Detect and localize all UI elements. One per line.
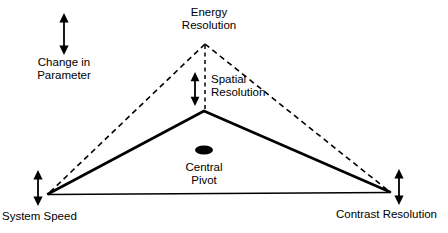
tradeoff-triangle-graphic [0,0,448,233]
label-central-pivot-line2: Pivot [185,174,222,187]
filled-ellipse-icon [195,145,213,154]
double-headed-vertical-arrow-icon-left-vertex [33,170,42,206]
label-spatial-resolution-line1: Spatial [211,73,265,86]
label-spatial-resolution-line2: Resolution [211,86,265,99]
solid-edge-right [204,111,390,192]
label-energy-resolution-line1: Energy [182,6,236,19]
label-energy-resolution: Energy Resolution [182,6,236,32]
label-change-in-parameter-line2: Parameter [37,69,91,82]
label-change-in-parameter-line1: Change in [37,56,91,69]
label-energy-resolution-line2: Resolution [182,19,236,32]
solid-edge-left [48,111,204,194]
label-contrast-resolution-line1: Contrast Resolution [336,208,437,221]
label-system-speed-line1: System Speed [2,210,77,223]
label-central-pivot: Central Pivot [185,161,222,187]
dashed-edge-right [205,44,390,192]
double-headed-vertical-arrow-icon-right-vertex [394,169,403,205]
solid-edge-base [48,193,390,195]
label-central-pivot-line1: Central [185,161,222,174]
label-spatial-resolution: Spatial Resolution [211,73,265,99]
label-contrast-resolution: Contrast Resolution [336,208,437,221]
label-system-speed: System Speed [2,210,77,223]
label-change-in-parameter: Change in Parameter [37,56,91,82]
diagram-canvas: Change in Parameter Energy Resolution Sp… [0,0,448,233]
double-headed-vertical-arrow-icon-spatial [191,72,200,106]
double-headed-vertical-arrow-icon-legend [59,13,68,55]
